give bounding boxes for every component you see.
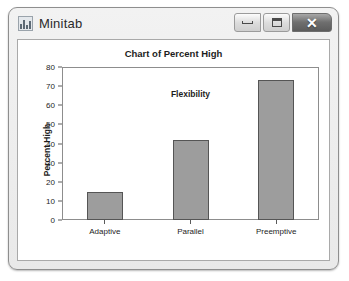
y-tick-label: 80	[46, 63, 55, 72]
x-tick-mark	[276, 220, 277, 224]
y-tick-label: 10	[46, 196, 55, 205]
y-tick-label: 50	[46, 120, 55, 129]
chart-title: Chart of Percent High	[18, 48, 329, 59]
close-icon: ✕	[306, 16, 318, 30]
chart-panel: Chart of Percent High Percent High 01020…	[17, 39, 330, 261]
y-tick: 70	[46, 82, 62, 91]
y-tick: 20	[46, 177, 62, 186]
y-tick-label: 20	[46, 177, 55, 186]
y-tick: 60	[46, 101, 62, 110]
window-controls: ✕	[234, 12, 332, 33]
bar[interactable]	[173, 140, 209, 220]
x-tick-mark	[190, 220, 191, 224]
x-axis-label: Flexibility	[62, 89, 319, 99]
window-title: Minitab	[39, 16, 82, 31]
maximize-icon	[272, 18, 282, 27]
maximize-button[interactable]	[263, 13, 290, 32]
x-axis-ticks: AdaptiveParallelPreemptive	[62, 220, 319, 254]
y-tick: 80	[46, 63, 62, 72]
bar[interactable]	[258, 80, 294, 220]
minimize-button[interactable]	[234, 13, 261, 32]
y-tick-label: 60	[46, 101, 55, 110]
y-tick: 0	[51, 216, 62, 225]
minitab-window: Minitab ✕ Chart of Percent High Percent …	[8, 7, 339, 270]
close-button[interactable]: ✕	[292, 13, 332, 32]
x-tick-label: Preemptive	[256, 227, 296, 236]
x-tick: Parallel	[148, 220, 234, 254]
bar-chart: Chart of Percent High Percent High 01020…	[18, 40, 329, 260]
minimize-icon	[242, 21, 253, 24]
y-axis-label: Percent High	[42, 124, 52, 176]
y-tick: 40	[46, 139, 62, 148]
y-tick: 50	[46, 120, 62, 129]
y-tick-label: 0	[51, 216, 55, 225]
x-tick: Adaptive	[62, 220, 148, 254]
x-tick-label: Adaptive	[89, 227, 120, 236]
bar[interactable]	[87, 192, 123, 220]
x-tick-mark	[104, 220, 105, 224]
y-tick-label: 70	[46, 82, 55, 91]
title-bar[interactable]: Minitab ✕	[9, 8, 338, 38]
y-tick: 10	[46, 196, 62, 205]
y-tick-label: 40	[46, 139, 55, 148]
y-tick: 30	[46, 158, 62, 167]
bar-chart-icon	[18, 16, 33, 31]
x-tick: Preemptive	[233, 220, 319, 254]
y-tick-label: 30	[46, 158, 55, 167]
plot-wrapper: 01020304050607080 AdaptiveParallelPreemp…	[62, 67, 319, 220]
x-tick-label: Parallel	[177, 227, 204, 236]
